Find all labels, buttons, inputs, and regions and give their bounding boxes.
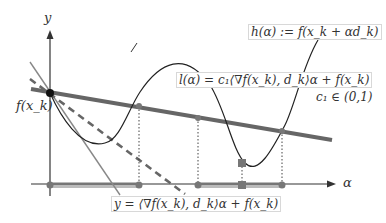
l-label: l(α) = c₁⟨∇f(x_k), d_k⟩α + f(x_k) [176,72,372,88]
alpha-axis-label: α [343,175,352,190]
start-point [46,89,54,97]
h-leader [131,43,137,52]
tangent-label: y = ⟨∇f(x_k), d_k⟩α + f(x_k) [111,196,281,212]
y-axis-label: y [44,10,51,25]
c1-label: c₁ ∈ (0,1) [316,90,373,104]
minimum-marker [238,159,246,167]
y-axis-arrow-icon [47,30,54,39]
alpha-axis-arrow-icon [327,181,336,188]
fxk-label: f(x_k) [16,98,53,113]
tangent-line [30,62,120,195]
h-curve [50,40,318,166]
intersection-points [47,103,286,189]
minimum-axis-marker [238,181,246,189]
armijo-line [31,89,332,140]
h-label: h(α) := f(x_k + αd_k) [248,24,382,40]
